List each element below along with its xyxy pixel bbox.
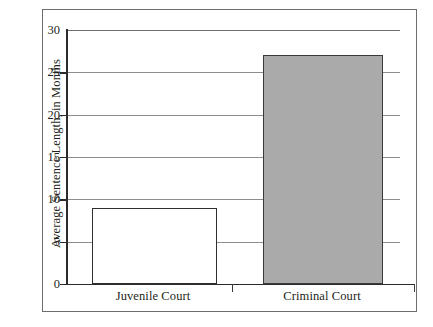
x-tick-mark-end	[414, 284, 415, 292]
y-tick-label-30: 30	[34, 23, 60, 38]
gridline-30	[66, 30, 400, 31]
bar-chart-figure: Average Sentence Length, in Months 30 25…	[0, 0, 433, 327]
y-tick-label-0: 0	[34, 277, 60, 292]
plot-area	[66, 30, 400, 284]
x-tick-mark-midpoint	[232, 284, 233, 292]
x-axis-line	[66, 284, 415, 286]
x-tick-label-juvenile-court: Juvenile Court	[88, 289, 218, 304]
bar-juvenile-court	[92, 208, 217, 284]
y-tick-label-5: 5	[34, 234, 60, 249]
y-tick-label-20: 20	[34, 107, 60, 122]
y-axis-tick-labels: 30 25 20 15 10 5 0	[32, 0, 60, 327]
y-tick-label-15: 15	[34, 150, 60, 165]
x-tick-label-criminal-court: Criminal Court	[257, 289, 387, 304]
y-axis-line	[66, 29, 68, 285]
y-tick-label-25: 25	[34, 65, 60, 80]
y-tick-label-10: 10	[34, 192, 60, 207]
bar-criminal-court	[263, 55, 383, 284]
